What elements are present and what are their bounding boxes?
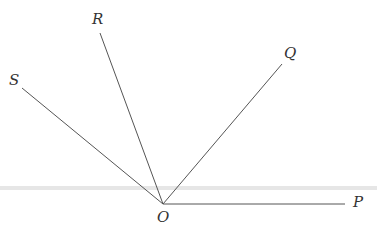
point-label-r: R: [92, 12, 103, 27]
point-label-p: P: [353, 195, 363, 210]
vertex-label-o: O: [157, 210, 169, 225]
ray-oq: [163, 64, 282, 204]
diagram-canvas: [0, 0, 377, 236]
angle-diagram: O P Q R S: [0, 0, 377, 236]
scan-band: [0, 186, 377, 190]
point-label-s: S: [9, 73, 19, 88]
point-label-q: Q: [284, 46, 296, 61]
